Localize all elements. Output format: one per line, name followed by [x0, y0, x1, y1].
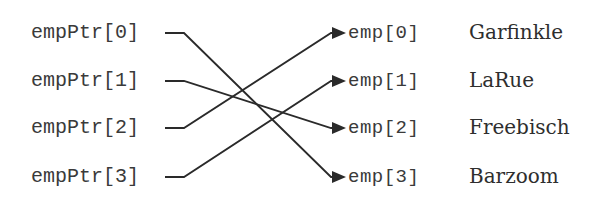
employee-label-1: emp[1] [348, 72, 419, 91]
arrowhead-icon [332, 27, 346, 39]
link-ptr0-to-emp3 [165, 33, 335, 177]
employee-name-3: Barzoom [469, 166, 559, 186]
link-ptr3-to-emp1 [165, 81, 335, 177]
pointer-array-diagram: empPtr[0] empPtr[1] empPtr[2] empPtr[3] … [0, 0, 613, 204]
arrowhead-icon [332, 122, 346, 134]
link-ptr2-to-emp0 [165, 33, 335, 128]
employee-name-1: LaRue [469, 70, 534, 90]
arrowhead-icon [332, 171, 346, 183]
arrowhead-icon [332, 75, 346, 87]
employee-name-0: Garfinkle [469, 22, 563, 42]
employee-label-2: emp[2] [348, 119, 419, 138]
employee-label-0: emp[0] [348, 24, 419, 43]
link-ptr1-to-emp2 [165, 81, 335, 128]
employee-name-2: Freebisch [469, 117, 570, 137]
employee-label-3: emp[3] [348, 168, 419, 187]
